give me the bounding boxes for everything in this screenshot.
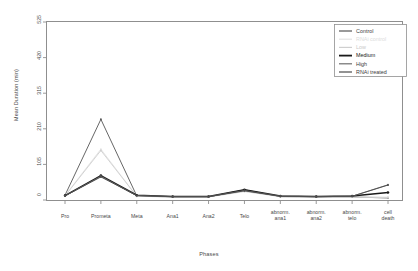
series-point — [100, 176, 102, 178]
y-tick-label: 0 — [36, 193, 42, 215]
series-point — [172, 196, 174, 198]
series-point — [387, 184, 389, 186]
series-point — [100, 150, 102, 152]
series-line — [65, 177, 388, 197]
series-point — [315, 196, 317, 198]
y-tick-label: 420 — [36, 51, 42, 73]
y-tick-label: 105 — [36, 157, 42, 179]
y-axis-title: Mean Duration (min) — [13, 35, 19, 155]
series-line — [65, 150, 388, 197]
x-tick-label: celldeath — [365, 209, 411, 222]
series-point — [64, 195, 66, 197]
legend-label: Control — [356, 28, 373, 34]
y-tick-label: 525 — [36, 15, 42, 37]
y-tick-label: 315 — [36, 86, 42, 108]
chart-figure: Mean Duration (min) Phases 0105210315420… — [0, 0, 418, 271]
legend-label: High — [356, 61, 367, 67]
series-point — [136, 195, 138, 197]
series-lines — [64, 118, 390, 199]
legend-label: Medium — [356, 52, 375, 58]
series-point — [243, 190, 245, 192]
series-point — [208, 196, 210, 198]
series-point — [279, 195, 281, 197]
series-point — [351, 195, 353, 197]
series-line — [65, 149, 388, 197]
series-line — [65, 119, 388, 198]
legend-label: RNAi control — [356, 36, 386, 42]
y-tick-label: 210 — [36, 122, 42, 144]
series-point — [387, 196, 389, 198]
series-point — [387, 191, 390, 194]
series-point — [100, 118, 102, 120]
legend-label: RNAi treated — [356, 69, 387, 75]
x-axis-title: Phases — [0, 251, 418, 257]
legend-label: Low — [356, 44, 366, 50]
